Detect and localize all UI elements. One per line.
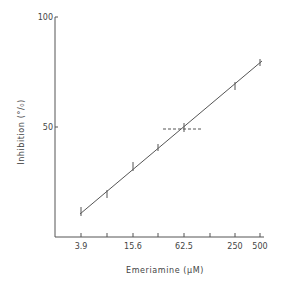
x-axis-title: Emeriamine (µM) [126,266,204,275]
chart: 100 50 3.9 15.6 62.5 250 500 Emeriamine … [0,0,286,286]
x-tick-label-500: 500 [252,242,267,251]
x-tick-label-250: 250 [227,242,242,251]
x-ticks [81,233,260,237]
x-tick-label-3.9: 3.9 [75,242,88,251]
x-tick-label-15.6: 15.6 [124,242,142,251]
x-tick-label-62.5: 62.5 [175,242,193,251]
y-tick-label-100: 100 [38,13,53,22]
y-tick-label-50: 50 [43,123,53,132]
y-axis-title: Inhibition (°/₀) [17,99,26,165]
